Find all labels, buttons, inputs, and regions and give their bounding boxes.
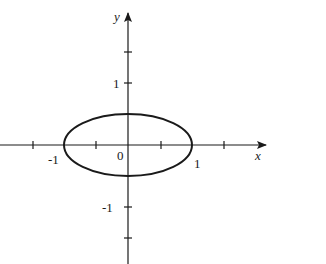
tick-label-x-1: 1 xyxy=(194,156,201,171)
x-axis-label: x xyxy=(254,148,261,163)
ellipse-diagram: y x -1 0 1 1 -1 xyxy=(0,0,326,264)
tick-label-y-1: 1 xyxy=(113,76,120,91)
tick-label-y-neg1: -1 xyxy=(102,200,113,215)
origin-label: 0 xyxy=(117,148,124,163)
y-axis-label: y xyxy=(112,9,120,24)
tick-label-x-neg1: -1 xyxy=(48,152,59,167)
